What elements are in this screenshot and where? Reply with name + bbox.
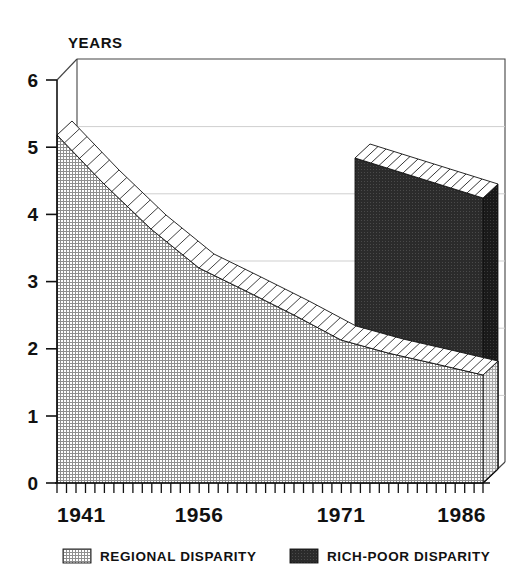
legend-item-rich-poor-disparity: RICH-POOR DISPARITY [290, 549, 490, 564]
y-tick-label: 4 [27, 204, 38, 225]
y-tick-label: 6 [27, 70, 38, 91]
chart-container: 6 5 4 3 2 1 0 1941 1956 1971 1986 YEARS … [0, 0, 532, 572]
y-tick-label: 3 [27, 271, 38, 292]
x-tick-labels: 1941 1956 1971 1986 [57, 503, 486, 526]
legend: REGIONAL DISPARITY RICH-POOR DISPARITY [63, 549, 490, 564]
x-tick-label: 1986 [437, 503, 486, 526]
light-hatch-swatch [63, 549, 91, 563]
y-tick-label: 2 [27, 338, 38, 359]
legend-label: RICH-POOR DISPARITY [327, 549, 490, 564]
y-tick-label: 0 [27, 473, 38, 494]
y-axis-ticks [46, 80, 57, 483]
area-chart-svg: 6 5 4 3 2 1 0 1941 1956 1971 1986 YEARS … [0, 0, 532, 572]
dark-solid-swatch [290, 549, 318, 563]
x-tick-label: 1941 [57, 503, 106, 526]
x-tick-label: 1971 [317, 503, 366, 526]
y-tick-label: 5 [27, 137, 38, 158]
y-tick-label: 1 [27, 406, 38, 427]
y-tick-labels: 6 5 4 3 2 1 0 [27, 70, 38, 494]
x-tick-label: 1956 [175, 503, 224, 526]
legend-label: REGIONAL DISPARITY [100, 549, 257, 564]
y-axis-title: YEARS [68, 34, 123, 51]
legend-item-regional-disparity: REGIONAL DISPARITY [63, 549, 257, 564]
x-axis-ticks [57, 483, 483, 493]
